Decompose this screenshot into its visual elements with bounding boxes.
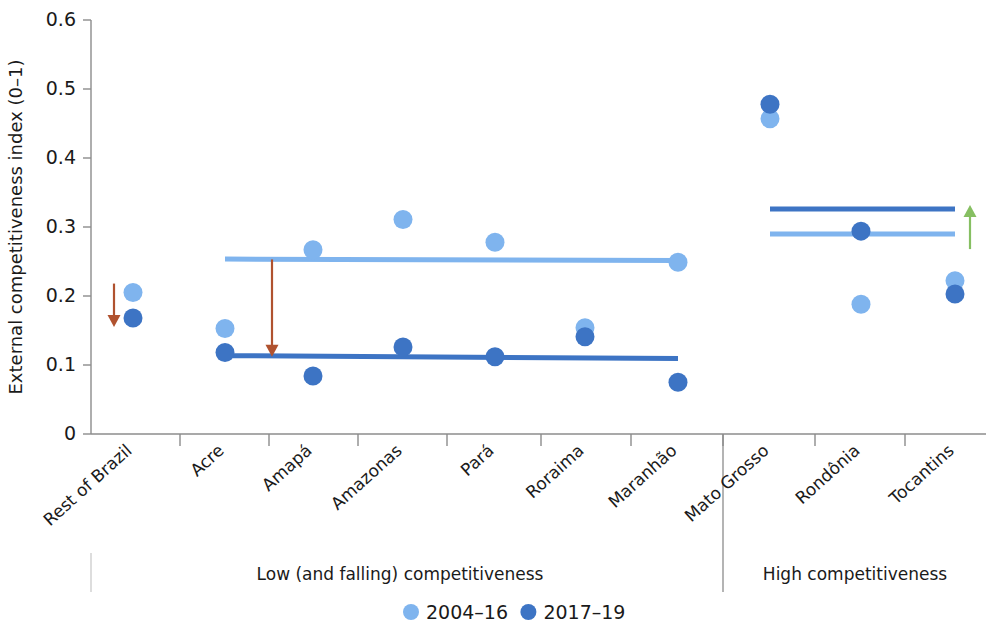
x-tick-label: Maranhão [604,440,680,512]
data-point [669,253,688,272]
x-axis-ticks [180,434,905,446]
x-tick-label: Pará [457,440,498,480]
x-axis-category-labels: Rest of BrazilAcreAmapáAmazonasParáRorai… [39,440,957,530]
y-tick-label: 0.1 [46,353,76,375]
data-point [852,222,871,241]
legend-item[interactable]: 2004–16 [403,601,508,623]
trend-line [225,259,678,260]
data-point [304,367,323,386]
chart-legend: 2004–162017–19 [403,601,625,623]
panel-label-high: High competitiveness [763,564,947,584]
y-axis-ticks: 00.10.20.30.40.50.6 [46,8,91,444]
data-point [761,95,780,114]
data-point [304,240,323,259]
y-tick-label: 0.3 [46,215,76,237]
data-point [669,373,688,392]
data-point [486,347,505,366]
annotation-arrows [108,205,977,357]
x-tick-label: Amazonas [327,440,406,514]
y-axis-title-text: External competitiveness index (0–1) [5,59,26,394]
x-tick-label: Tocantins [884,440,957,509]
data-point [216,319,235,338]
data-point [394,210,413,229]
data-point [394,338,413,357]
x-tick-label: Acre [186,440,227,480]
y-tick-label: 0.4 [46,146,76,168]
data-point [216,343,235,362]
chart-container: External competitiveness index (0–1) 00.… [0,0,992,630]
x-tick-label: Amapá [258,440,316,495]
legend-label: 2004–16 [426,601,508,623]
y-axis-title: External competitiveness index (0–1) [5,59,26,394]
x-tick-label: Rest of Brazil [39,440,135,530]
arrow-head [964,205,977,217]
arrow-head [108,315,121,327]
panel-labels: Low (and falling) competitivenessHigh co… [257,564,948,584]
external-competitiveness-scatter-chart: External competitiveness index (0–1) 00.… [0,0,992,630]
data-point [124,283,143,302]
legend-item[interactable]: 2017–19 [520,601,625,623]
panel-label-low: Low (and falling) competitiveness [257,564,544,584]
low-panel-decline-arrow [266,259,279,356]
y-tick-label: 0.6 [46,8,76,30]
data-point [124,309,143,328]
data-point [946,284,965,303]
rest-of-brazil-decline-arrow [108,284,121,327]
trend-line [225,356,678,359]
data-points [124,95,965,392]
data-point [486,233,505,252]
data-point [576,327,595,346]
data-point [852,295,871,314]
legend-swatch [403,604,419,620]
high-panel-rise-arrow [964,205,977,249]
y-tick-label: 0 [64,422,76,444]
y-tick-label: 0.2 [46,284,76,306]
y-tick-label: 0.5 [46,77,76,99]
x-tick-label: Mato Grosso [681,440,773,526]
x-tick-label: Rondônia [791,440,863,508]
legend-swatch [520,604,536,620]
x-tick-label: Roraima [522,440,588,502]
legend-label: 2017–19 [543,601,625,623]
